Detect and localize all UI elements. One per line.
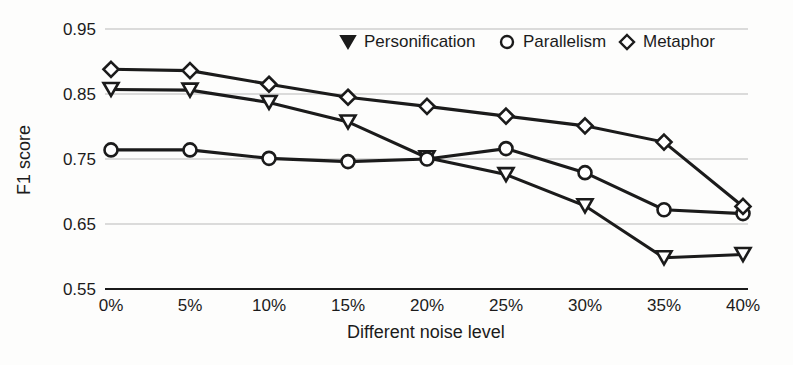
- legend-diamond-icon: [620, 35, 634, 49]
- data-point-marker: [579, 166, 592, 179]
- x-tick-label: 0%: [99, 296, 124, 315]
- x-tick-label: 25%: [489, 296, 523, 315]
- x-tick-label: 5%: [178, 296, 203, 315]
- chart-legend: PersonificationParallelismMetaphor: [341, 32, 715, 51]
- y-tick-label: 0.55: [63, 280, 96, 299]
- data-point-marker: [342, 155, 355, 168]
- gridlines: [105, 29, 748, 224]
- data-point-marker: [420, 99, 435, 114]
- x-tick-label: 40%: [726, 296, 760, 315]
- data-point-marker: [421, 153, 434, 166]
- y-tick-label: 0.95: [63, 20, 96, 39]
- data-point-marker: [105, 143, 118, 156]
- data-point-marker: [736, 248, 751, 261]
- legend-circle-icon: [501, 36, 513, 48]
- x-tick-label: 10%: [252, 296, 286, 315]
- series-line-metaphor: [111, 69, 743, 206]
- data-point-marker: [262, 77, 277, 92]
- data-point-marker: [183, 63, 198, 78]
- x-tick-label: 30%: [568, 296, 602, 315]
- x-tick-label: 35%: [647, 296, 681, 315]
- data-point-marker: [104, 62, 119, 77]
- x-tick-label: 15%: [331, 296, 365, 315]
- y-axis-tick-labels: 0.550.650.750.850.95: [63, 20, 96, 299]
- data-point-marker: [499, 109, 514, 124]
- data-point-marker: [263, 152, 276, 165]
- data-point-marker: [341, 115, 356, 128]
- y-axis-title: F1 score: [14, 125, 34, 195]
- data-point-marker: [262, 96, 277, 109]
- data-point-marker: [578, 118, 593, 133]
- legend-label-parallelism: Parallelism: [523, 32, 606, 51]
- chart-figure: 0.550.650.750.850.95 0%5%10%15%20%25%30%…: [0, 0, 793, 365]
- legend-triangle-down-icon: [341, 36, 355, 48]
- data-point-marker: [499, 168, 514, 181]
- x-tick-label: 20%: [410, 296, 444, 315]
- data-point-marker: [183, 84, 198, 97]
- data-point-marker: [658, 203, 671, 216]
- legend-label-personification: Personification: [364, 32, 476, 51]
- data-point-marker: [657, 251, 672, 264]
- data-point-marker: [184, 143, 197, 156]
- data-point-marker: [500, 142, 513, 155]
- y-tick-label: 0.75: [63, 150, 96, 169]
- x-axis-tick-labels: 0%5%10%15%20%25%30%35%40%: [99, 296, 760, 315]
- x-axis-title: Different noise level: [347, 322, 505, 342]
- line-chart: 0.550.650.750.850.95 0%5%10%15%20%25%30%…: [0, 0, 793, 365]
- data-point-marker: [341, 90, 356, 105]
- y-tick-label: 0.65: [63, 215, 96, 234]
- y-tick-label: 0.85: [63, 85, 96, 104]
- legend-label-metaphor: Metaphor: [643, 32, 715, 51]
